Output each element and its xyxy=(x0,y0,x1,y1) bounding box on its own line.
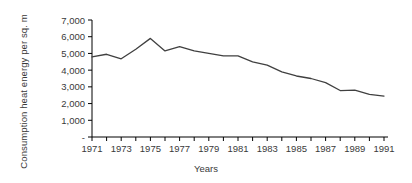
x-axis-ticks xyxy=(92,137,384,141)
x-tick-label: 1989 xyxy=(344,143,365,154)
y-tick-label: 3,000 xyxy=(61,81,85,92)
y-tick-label: 4,000 xyxy=(61,65,85,76)
data-series-group xyxy=(92,38,384,96)
y-tick-label: 7,000 xyxy=(61,15,85,26)
y-tick-label: 1,000 xyxy=(61,115,85,126)
chart-container: Consumption heat energy per sq. m -1,000… xyxy=(0,0,412,183)
x-tick-label: 1973 xyxy=(111,143,132,154)
x-axis-title: Years xyxy=(0,163,412,174)
x-tick-label: 1977 xyxy=(169,143,190,154)
x-tick-label: 1971 xyxy=(81,143,102,154)
x-tick-label: 1985 xyxy=(286,143,307,154)
y-axis-group: -1,0002,0003,0004,0005,0006,0007,000 xyxy=(61,15,92,143)
y-tick-label: - xyxy=(82,132,85,143)
x-tick-label: 1975 xyxy=(140,143,161,154)
data-line-series-1 xyxy=(92,38,384,96)
chart-plot-area: -1,0002,0003,0004,0005,0006,0007,000 197… xyxy=(0,0,412,183)
x-axis-group: 1971197319751977197919811983198519871989… xyxy=(81,137,394,154)
x-tick-label: 1991 xyxy=(373,143,394,154)
y-axis-tick-labels: -1,0002,0003,0004,0005,0006,0007,000 xyxy=(61,15,85,143)
y-axis-ticks xyxy=(88,20,92,137)
y-tick-label: 2,000 xyxy=(61,98,85,109)
y-tick-label: 6,000 xyxy=(61,31,85,42)
y-tick-label: 5,000 xyxy=(61,48,85,59)
x-tick-label: 1979 xyxy=(198,143,219,154)
x-axis-tick-labels: 1971197319751977197919811983198519871989… xyxy=(81,143,394,154)
x-tick-label: 1981 xyxy=(227,143,248,154)
x-tick-label: 1987 xyxy=(315,143,336,154)
x-tick-label: 1983 xyxy=(257,143,278,154)
